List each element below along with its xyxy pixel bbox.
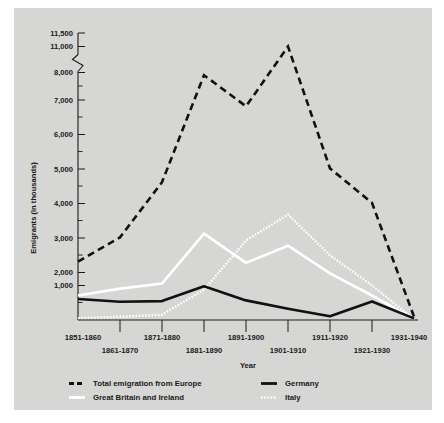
- series-total-emigration-from-europe: [78, 47, 414, 317]
- y-axis-break-icon: [73, 55, 84, 72]
- x-tick-label-1851-1860: 1851-1860: [65, 333, 101, 342]
- y-tick-label-3000: 3,000: [54, 234, 73, 243]
- legend-item-great-britain-and-ireland: Great Britain and Ireland: [69, 393, 184, 402]
- y-minor-ticks: [78, 86, 83, 303]
- chart-legend: Total emigration from Europe Germany Gre…: [69, 379, 319, 402]
- x-tick-label-1901-1910: 1901-1910: [270, 346, 306, 355]
- x-tick-label-1911-1920: 1911-1920: [312, 333, 348, 342]
- series-great-britain-and-ireland: [78, 234, 414, 319]
- x-tick-label-1881-1890: 1881-1890: [186, 346, 222, 355]
- y-tick-label-11500: 11,500: [50, 29, 73, 38]
- y-tick-label-5000: 5,000: [54, 165, 73, 174]
- x-ticks: [120, 320, 372, 332]
- x-tick-label-1871-1880: 1871-1880: [144, 333, 180, 342]
- x-tick-label-1891-1900: 1891-1900: [228, 333, 264, 342]
- y-tick-label-7000: 7,000: [54, 96, 73, 105]
- x-axis-title: Year: [240, 361, 256, 370]
- legend-label-total-emigration: Total emigration from Europe: [93, 379, 202, 388]
- legend-item-total-emigration-from-europe: Total emigration from Europe: [69, 379, 202, 388]
- x-tick-label-1921-1930: 1921-1930: [354, 346, 390, 355]
- y-axis-title: Emigrants (in thousands): [29, 162, 38, 254]
- y-tick-label-1000: 1,000: [54, 281, 73, 290]
- y-tick-label-11000: 11,000: [50, 42, 73, 51]
- y-axis: 11,500 11,000 8,000 7,000 6,000 5,000 4,…: [29, 29, 85, 320]
- plot-area: [78, 47, 414, 320]
- legend-item-germany: Germany: [261, 379, 319, 388]
- legend-label-italy: Italy: [285, 393, 301, 402]
- y-tick-label-8000: 8,000: [54, 68, 73, 77]
- legend-label-germany: Germany: [285, 379, 319, 388]
- x-tick-label-1861-1870: 1861-1870: [102, 346, 138, 355]
- y-tick-label-6000: 6,000: [54, 130, 73, 139]
- y-tick-label-2000: 2,000: [54, 268, 73, 277]
- legend-item-italy: Italy: [261, 393, 301, 402]
- x-tick-label-1931-1940: 1931-1940: [391, 333, 427, 342]
- legend-label-great-britain: Great Britain and Ireland: [93, 393, 184, 402]
- chart-figure: 11,500 11,000 8,000 7,000 6,000 5,000 4,…: [14, 8, 432, 410]
- y-tick-label-4000: 4,000: [54, 199, 73, 208]
- emigration-line-chart: 11,500 11,000 8,000 7,000 6,000 5,000 4,…: [14, 8, 432, 410]
- x-axis: 1851-1860 1871-1880 1891-1900 1911-1920 …: [65, 320, 427, 370]
